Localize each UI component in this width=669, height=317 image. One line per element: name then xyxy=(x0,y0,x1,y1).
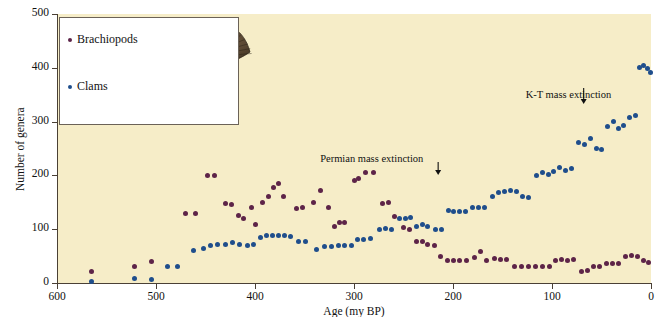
data-point-brachiopods xyxy=(492,256,497,261)
data-point-clams xyxy=(149,277,154,282)
data-point-brachiopods xyxy=(629,253,634,258)
data-point-clams xyxy=(322,244,327,249)
y-tick-label: 0 xyxy=(9,275,49,287)
data-point-brachiopods xyxy=(425,242,430,247)
data-point-brachiopods xyxy=(498,257,503,262)
data-point-clams xyxy=(377,227,382,232)
data-point-brachiopods xyxy=(616,261,621,266)
y-tick xyxy=(52,175,57,176)
data-point-clams xyxy=(433,227,438,232)
y-tick xyxy=(52,14,57,15)
y-tick xyxy=(52,229,57,230)
data-point-brachiopods xyxy=(249,205,254,210)
data-point-clams xyxy=(563,168,568,173)
data-point-clams xyxy=(237,242,242,247)
data-point-clams xyxy=(251,242,256,247)
data-point-brachiopods xyxy=(342,220,347,225)
data-point-clams xyxy=(446,208,451,213)
data-point-clams xyxy=(342,243,347,248)
x-tick-label: 400 xyxy=(235,290,275,302)
x-tick xyxy=(552,284,553,289)
data-point-clams xyxy=(508,188,513,193)
data-point-clams xyxy=(502,189,507,194)
data-point-clams xyxy=(616,126,621,131)
y-axis-title: Number of genera xyxy=(14,107,26,191)
data-point-clams xyxy=(648,70,653,75)
x-axis-title: Age (my BP) xyxy=(314,305,394,317)
y-axis-line xyxy=(57,14,58,284)
data-point-brachiopods xyxy=(519,264,524,269)
data-point-brachiopods xyxy=(432,243,437,248)
data-point-brachiopods xyxy=(635,254,640,259)
y-tick-label: 100 xyxy=(9,221,49,233)
data-point-brachiopods xyxy=(89,269,94,274)
data-point-clams xyxy=(223,242,228,247)
data-point-clams xyxy=(201,246,206,251)
data-point-brachiopods xyxy=(445,258,450,263)
x-tick xyxy=(255,284,256,289)
data-point-clams xyxy=(215,242,220,247)
legend-item-brachiopods: Brachiopods xyxy=(68,32,138,47)
data-point-clams xyxy=(576,140,581,145)
data-point-clams xyxy=(208,243,213,248)
data-point-clams xyxy=(534,173,539,178)
data-point-brachiopods xyxy=(386,200,391,205)
data-point-brachiopods xyxy=(585,268,590,273)
data-point-clams xyxy=(540,170,545,175)
data-point-clams xyxy=(414,224,419,229)
legend-marker-brachiopods xyxy=(68,38,72,42)
data-point-brachiopods xyxy=(236,213,241,218)
annotation-permian-mass-extinction: Permian mass extinction xyxy=(320,153,423,164)
data-point-brachiopods xyxy=(193,211,198,216)
data-point-brachiopods xyxy=(438,254,443,259)
legend-label-clams: Clams xyxy=(77,79,108,94)
data-point-clams xyxy=(296,239,301,244)
data-point-brachiopods xyxy=(641,258,646,263)
x-tick-label: 200 xyxy=(433,290,473,302)
data-point-clams xyxy=(132,276,137,281)
data-point-brachiopods xyxy=(149,259,154,264)
data-point-clams xyxy=(383,226,388,231)
data-point-brachiopods xyxy=(205,173,210,178)
data-point-brachiopods xyxy=(183,211,188,216)
data-point-brachiopods xyxy=(311,200,316,205)
data-point-brachiopods xyxy=(547,264,552,269)
legend-item-clams: Clams xyxy=(68,79,108,94)
legend-label-brachiopods: Brachiopods xyxy=(77,32,138,47)
data-point-clams xyxy=(245,243,250,248)
x-tick-label: 500 xyxy=(136,290,176,302)
data-point-clams xyxy=(349,243,354,248)
y-tick xyxy=(52,122,57,123)
data-point-clams xyxy=(336,243,341,248)
data-point-brachiopods xyxy=(504,257,509,262)
data-point-clams xyxy=(627,115,632,120)
legend-marker-clams xyxy=(68,85,72,89)
data-point-brachiopods xyxy=(337,220,342,225)
y-tick-label: 400 xyxy=(9,60,49,72)
data-point-clams xyxy=(329,244,334,249)
data-point-brachiopods xyxy=(610,261,615,266)
data-point-clams xyxy=(546,172,551,177)
data-point-brachiopods xyxy=(241,216,246,221)
x-tick-label: 0 xyxy=(631,290,669,302)
data-point-clams xyxy=(389,227,394,232)
x-tick xyxy=(156,284,157,289)
x-tick xyxy=(57,284,58,289)
y-tick xyxy=(52,68,57,69)
data-point-brachiopods xyxy=(646,260,651,265)
data-point-brachiopods xyxy=(326,205,331,210)
annotation-kt-mass-extinction: K-T mass extinction xyxy=(526,89,612,100)
data-point-clams xyxy=(397,216,402,221)
data-point-brachiopods xyxy=(212,173,217,178)
x-tick xyxy=(453,284,454,289)
data-point-brachiopods xyxy=(414,239,419,244)
data-point-brachiopods xyxy=(223,201,228,206)
data-point-clams xyxy=(611,119,616,124)
x-tick-label: 300 xyxy=(334,290,374,302)
data-point-brachiopods xyxy=(318,188,323,193)
x-tick-label: 600 xyxy=(37,290,77,302)
data-point-brachiopods xyxy=(332,224,337,229)
data-point-clams xyxy=(230,240,235,245)
x-tick-label: 100 xyxy=(532,290,572,302)
